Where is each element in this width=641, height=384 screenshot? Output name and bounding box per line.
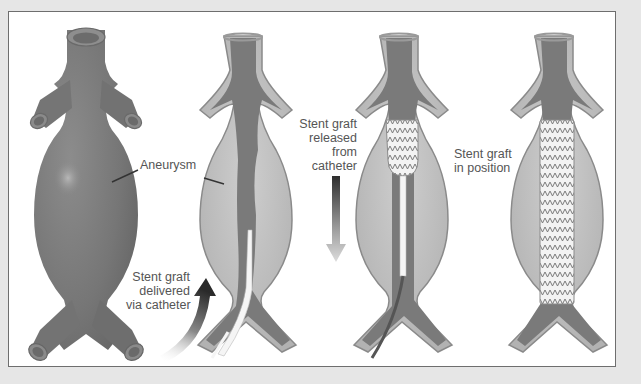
panel-3-graft-release: [326, 34, 452, 359]
delivered-line-2: delivered: [126, 284, 190, 298]
released-line-1: Stent graft: [296, 117, 357, 131]
stent-graft-released-label: Stent graft released from catheter: [296, 117, 357, 173]
in-position-line-2: in position: [454, 161, 516, 175]
aneurysm-label: Aneurysm: [140, 158, 196, 172]
release-arrow-icon: [326, 176, 346, 262]
delivered-line-1: Stent graft: [126, 270, 190, 284]
panel-1-intact-aorta: [26, 28, 147, 364]
stent-graft-delivered-label: Stent graft delivered via catheter: [126, 270, 190, 312]
stent-graft-in-position-label: Stent graft in position: [454, 147, 516, 175]
released-line-2: released: [296, 131, 357, 145]
released-line-3: from: [296, 145, 357, 159]
aneurysm-label-text: Aneurysm: [140, 158, 196, 172]
in-position-line-1: Stent graft: [454, 147, 516, 161]
delivered-line-3: via catheter: [126, 298, 190, 312]
released-line-4: catheter: [296, 159, 357, 173]
panel-2-catheter-delivery: [160, 34, 296, 363]
aneurysm-repair-illustration: [0, 0, 641, 384]
panel-4-graft-in-position: [509, 34, 607, 353]
